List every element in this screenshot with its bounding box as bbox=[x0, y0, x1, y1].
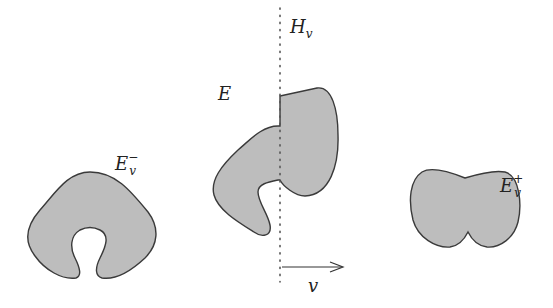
set-e-label: E bbox=[217, 83, 231, 104]
hyperplane-label: Hv bbox=[289, 16, 313, 41]
set-e-shape bbox=[213, 88, 338, 235]
set-e-v-minus-label: E−v bbox=[114, 150, 138, 178]
set-e-v-minus-shape bbox=[28, 172, 156, 278]
set-e-v-plus-label: E+v bbox=[499, 172, 523, 200]
diagram-canvas: Hv E E−v E+v v bbox=[0, 0, 553, 308]
direction-arrow-icon bbox=[282, 262, 343, 272]
direction-label: v bbox=[308, 275, 318, 296]
